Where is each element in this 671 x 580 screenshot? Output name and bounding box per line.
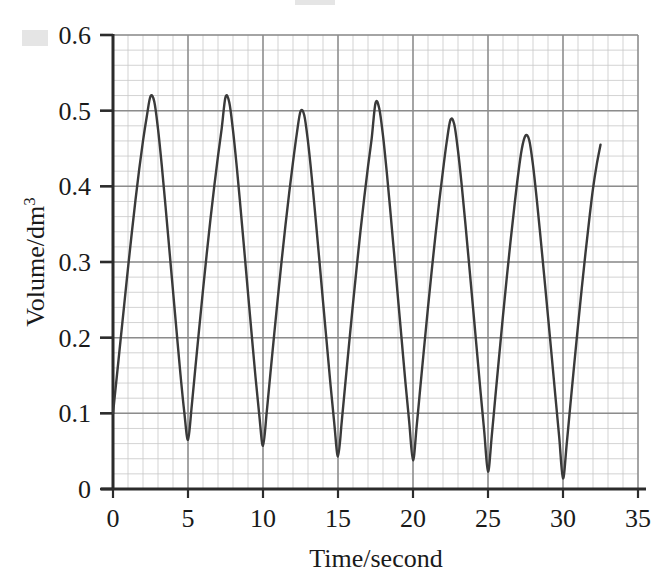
y-tick-label-0.4: 0.4 — [59, 172, 92, 201]
x-tick-label-35: 35 — [625, 504, 651, 533]
y-tick-label-0.3: 0.3 — [59, 248, 92, 277]
y-tick-label-0.1: 0.1 — [59, 399, 92, 428]
y-tick-label-0.2: 0.2 — [59, 324, 92, 353]
y-axis-title-exponent: 3 — [20, 197, 39, 206]
x-tick-label-5: 5 — [182, 504, 195, 533]
y-axis-title-base: Volume/dm — [21, 206, 50, 327]
chart-background — [0, 0, 671, 580]
x-tick-label-15: 15 — [325, 504, 351, 533]
x-tick-label-20: 20 — [400, 504, 426, 533]
y-tick-label-0: 0 — [78, 475, 91, 504]
y-axis-title-group: Volume/dm3 — [20, 197, 50, 326]
x-axis-title: Time/second — [309, 544, 442, 573]
x-tick-label-30: 30 — [550, 504, 576, 533]
chart-figure: 05101520253035 00.10.20.30.40.50.6 Time/… — [0, 0, 671, 580]
y-tick-label-0.6: 0.6 — [59, 21, 92, 50]
x-tick-label-0: 0 — [107, 504, 120, 533]
y-tick-label-0.5: 0.5 — [59, 97, 92, 126]
y-axis-title: Volume/dm3 — [20, 197, 50, 326]
x-tick-label-10: 10 — [250, 504, 276, 533]
scan-artifact-left — [22, 30, 48, 46]
x-tick-label-25: 25 — [475, 504, 501, 533]
volume-time-chart: 05101520253035 00.10.20.30.40.50.6 Time/… — [0, 0, 671, 580]
scan-artifact — [295, 0, 335, 5]
